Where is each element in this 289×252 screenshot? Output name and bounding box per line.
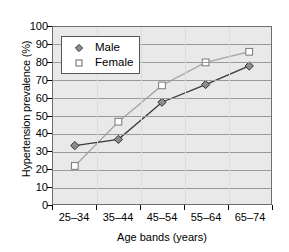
legend-marker-female-icon xyxy=(66,56,92,69)
x-tick-label: 45–54 xyxy=(147,211,178,224)
data-point-female xyxy=(246,48,253,55)
y-axis-tick-labels: 0102030405060708090100 xyxy=(22,20,48,206)
y-tickmark xyxy=(47,133,52,134)
y-tick-label: 70 xyxy=(22,74,48,85)
hypertension-prevalence-chart: Hypertension prevalence (%) 010203040506… xyxy=(0,0,289,252)
y-tickmark xyxy=(47,80,52,81)
gridline-horizontal xyxy=(53,116,271,117)
x-tick-label: 35–44 xyxy=(103,211,134,224)
gridline-vertical xyxy=(185,27,186,204)
y-tick-label: 80 xyxy=(22,56,48,67)
y-tick-label: 50 xyxy=(22,110,48,121)
legend-item-male: Male xyxy=(66,40,133,55)
legend-label-female: Female xyxy=(92,56,133,69)
square-icon xyxy=(75,59,83,67)
x-tickmark xyxy=(272,205,273,210)
y-tick-label: 100 xyxy=(22,21,48,32)
x-tickmark xyxy=(228,205,229,210)
x-tickmark xyxy=(96,205,97,210)
data-point-male xyxy=(71,141,79,149)
y-tick-label: 10 xyxy=(22,182,48,193)
data-point-female xyxy=(159,82,166,89)
x-tickmark xyxy=(52,205,53,210)
y-tick-label: 20 xyxy=(22,164,48,175)
gridline-horizontal xyxy=(53,170,271,171)
x-axis-title: Age bands (years) xyxy=(52,231,272,243)
y-tick-label: 30 xyxy=(22,146,48,157)
legend-marker-male-icon xyxy=(66,41,92,54)
y-tickmark xyxy=(47,26,52,27)
y-tick-label: 90 xyxy=(22,38,48,49)
x-axis-tick-labels: 25–3435–4445–5455–6465–74 xyxy=(52,211,272,227)
diamond-icon xyxy=(75,44,83,52)
gridline-horizontal xyxy=(53,80,271,81)
y-tickmark xyxy=(47,187,52,188)
legend: Male Female xyxy=(61,36,140,74)
gridline-horizontal xyxy=(53,98,271,99)
gridline-horizontal xyxy=(53,134,271,135)
x-tick-label: 25–34 xyxy=(59,211,90,224)
legend-label-male: Male xyxy=(92,41,120,54)
y-tickmark xyxy=(47,116,52,117)
data-point-female xyxy=(71,163,78,170)
legend-item-female: Female xyxy=(66,55,133,70)
gridline-horizontal xyxy=(53,188,271,189)
y-tickmark xyxy=(47,44,52,45)
y-tick-label: 40 xyxy=(22,128,48,139)
y-tickmark xyxy=(47,98,52,99)
gridline-horizontal xyxy=(53,152,271,153)
data-point-male xyxy=(201,80,209,88)
x-tick-label: 55–64 xyxy=(191,211,222,224)
x-tick-label: 65–74 xyxy=(235,211,266,224)
y-tickmark xyxy=(47,62,52,63)
y-tickmark xyxy=(47,169,52,170)
y-tick-label: 60 xyxy=(22,92,48,103)
gridline-vertical xyxy=(229,27,230,204)
y-tick-label: 0 xyxy=(22,200,48,211)
y-tickmark xyxy=(47,151,52,152)
x-tickmark xyxy=(140,205,141,210)
data-point-female xyxy=(115,118,122,125)
gridline-vertical xyxy=(141,27,142,204)
x-tickmark xyxy=(184,205,185,210)
